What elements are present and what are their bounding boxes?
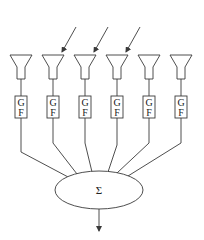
- incident-arrow-2: [94, 27, 108, 52]
- beamformer-diagram: G F G F G F G F G F: [0, 0, 204, 240]
- array-element-2: G F: [42, 55, 77, 174]
- array-element-1: G F: [10, 55, 70, 178]
- sigma-symbol: Σ: [96, 184, 102, 196]
- gf-box-label-f: F: [178, 107, 184, 118]
- gf-box-label-f: F: [114, 107, 120, 118]
- horn-antenna-icon: [138, 55, 160, 79]
- horn-antenna-icon: [42, 55, 64, 79]
- incident-arrow-1: [62, 27, 76, 52]
- horn-antenna-icon: [10, 55, 32, 79]
- gf-box-label-f: F: [82, 107, 88, 118]
- horn-antenna-icon: [74, 55, 96, 79]
- array-element-6: G F: [128, 55, 192, 176]
- horn-antenna-icon: [170, 55, 192, 79]
- array-element-3: G F: [74, 55, 96, 172]
- incident-arrow-3: [126, 27, 140, 52]
- gf-box-label-f: F: [18, 107, 24, 118]
- gf-box-label-f: F: [146, 107, 152, 118]
- horn-antenna-icon: [106, 55, 128, 79]
- gf-box-label-f: F: [50, 107, 56, 118]
- array-element-4: G F: [106, 55, 128, 172]
